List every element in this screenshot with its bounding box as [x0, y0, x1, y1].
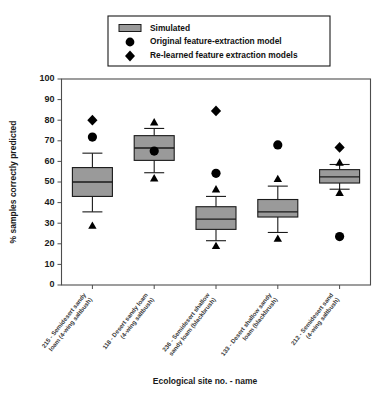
y-tick-label: 40	[44, 197, 54, 207]
chart-legend: Simulated Original feature-extraction mo…	[108, 16, 330, 66]
x-category-label-line: 133 - Desert shallow sandy	[219, 291, 273, 357]
marker-circle-original	[88, 132, 97, 141]
y-tick-label: 20	[44, 238, 54, 248]
legend-label-relearned: Re-learned feature extraction models	[150, 50, 298, 60]
x-category-label-line: 236 - Semidesert shallow	[161, 291, 211, 353]
x-axis-ticks	[92, 285, 339, 289]
marker-circle-original	[335, 232, 344, 241]
box	[258, 200, 298, 218]
x-category-label: 118 - Desert sandy loam(4-wing saltbush)	[101, 291, 156, 355]
x-axis-category-labels: 215 - Semidesert sandyloam (4-wing saltb…	[40, 291, 341, 362]
legend-swatch-simulated	[119, 25, 141, 32]
chart-figure: Simulated Original feature-extraction mo…	[0, 0, 384, 405]
boxplot-group	[320, 142, 360, 241]
x-axis-title: Ecological site no. - name	[153, 376, 258, 386]
x-category-label: 212 - Semidesert sand(4-wing saltbush)	[289, 291, 340, 351]
x-category-label-line: 215 - Semidesert sandy	[40, 291, 88, 349]
y-tick-label: 60	[44, 156, 54, 166]
marker-triangle-upper	[150, 118, 158, 125]
marker-triangle-lower	[212, 242, 220, 249]
x-category-label: 236 - Semidesert shallowsandy loam (blac…	[161, 291, 217, 357]
legend-label-original: Original feature-extraction model	[150, 36, 282, 46]
x-category-label-line: 118 - Desert sandy loam	[101, 291, 150, 350]
y-tick-label: 30	[44, 218, 54, 228]
marker-triangle-lower	[150, 174, 158, 181]
y-tick-label: 10	[44, 259, 54, 269]
marker-circle-original	[150, 147, 159, 156]
box	[196, 207, 236, 230]
x-category-label-line: sandy loam (blackbrush)	[167, 296, 217, 357]
x-category-label-line: loam (4-wing saltbush)	[47, 296, 93, 352]
marker-circle-original	[211, 169, 220, 178]
legend-marker-circle	[126, 38, 135, 47]
marker-diamond-relearned	[211, 106, 221, 117]
marker-triangle-upper	[212, 185, 220, 192]
boxplot-group	[134, 118, 174, 181]
y-axis-title: % samples correctly predicted	[8, 121, 18, 244]
boxplot-group	[72, 115, 112, 229]
y-tick-label: 50	[44, 176, 54, 186]
marker-triangle-upper	[335, 158, 343, 165]
y-tick-label: 70	[44, 135, 54, 145]
y-tick-label: 80	[44, 115, 54, 125]
y-axis: 0102030405060708090100	[39, 73, 61, 289]
x-category-label-line: 212 - Semidesert sand	[289, 291, 334, 346]
marker-triangle-lower	[88, 221, 96, 228]
boxplot-group	[258, 140, 298, 242]
marker-diamond-relearned	[335, 142, 345, 153]
y-tick-label: 90	[44, 94, 54, 104]
plot-body	[72, 106, 359, 250]
y-tick-label: 100	[39, 73, 54, 83]
x-category-label: 133 - Desert shallow sandyloam (blackbru…	[219, 291, 279, 362]
boxplot-group	[196, 106, 236, 250]
marker-triangle-upper	[274, 175, 282, 182]
marker-triangle-lower	[274, 234, 282, 241]
x-category-label: 215 - Semidesert sandyloam (4-wing saltb…	[40, 291, 94, 354]
boxplot-svg: Simulated Original feature-extraction mo…	[0, 0, 384, 405]
legend-label-simulated: Simulated	[150, 23, 190, 33]
y-tick-label: 0	[49, 279, 54, 289]
marker-circle-original	[273, 140, 282, 149]
marker-diamond-relearned	[87, 115, 97, 126]
